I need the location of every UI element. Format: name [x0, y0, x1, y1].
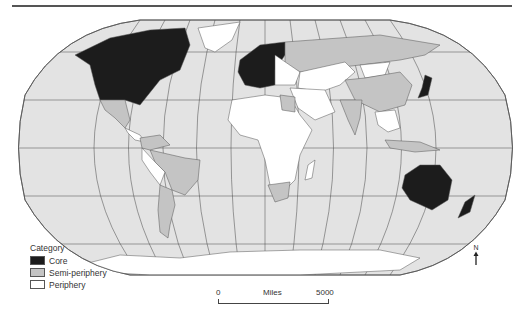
legend: Category Core Semi-periphery Periphery — [30, 243, 107, 291]
scale-unit: Miles — [263, 288, 282, 297]
legend-label: Semi-periphery — [49, 268, 107, 278]
legend-item-periphery: Periphery — [30, 279, 107, 290]
swatch-core — [30, 256, 45, 265]
scale-start: 0 — [216, 288, 220, 297]
legend-label: Periphery — [49, 280, 85, 290]
legend-label: Core — [49, 256, 67, 266]
legend-item-semi-periphery: Semi-periphery — [30, 267, 107, 278]
swatch-semi-periphery — [30, 268, 45, 277]
north-arrow: N — [471, 244, 481, 266]
egypt — [280, 95, 295, 112]
legend-title: Category — [30, 243, 107, 253]
scale-bar-line — [218, 299, 329, 304]
scale-bar: 0 Miles 5000 — [215, 288, 335, 298]
swatch-periphery — [30, 280, 45, 289]
scale-end: 5000 — [316, 288, 334, 297]
north-arrow-icon — [471, 251, 481, 265]
legend-item-core: Core — [30, 255, 107, 266]
north-label: N — [471, 244, 481, 251]
